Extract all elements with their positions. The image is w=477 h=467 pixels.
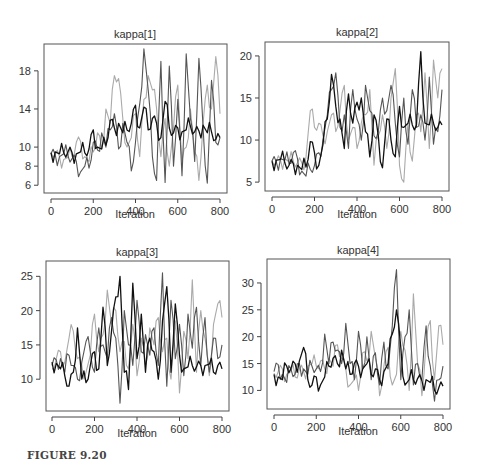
svg-text:0: 0 — [271, 421, 277, 433]
y-axis: 1015202530 — [242, 277, 261, 396]
chain-trace-line — [274, 270, 443, 402]
trace-plot: 02004006008001015202530 — [0, 0, 477, 467]
svg-text:10: 10 — [242, 384, 254, 396]
trace-panel-kappa-4: kappa[4] 02004006008001015202530 Iterati… — [0, 0, 477, 467]
chain-trace-line — [274, 294, 443, 396]
figure-caption-label: FIGURE 9.20 — [27, 449, 107, 461]
svg-text:600: 600 — [392, 421, 410, 433]
svg-text:25: 25 — [242, 304, 254, 316]
x-axis-label: Iteration — [338, 425, 378, 437]
svg-text:30: 30 — [242, 277, 254, 289]
chain-trace-line — [274, 310, 443, 394]
svg-text:20: 20 — [242, 331, 254, 343]
svg-text:15: 15 — [242, 358, 254, 370]
svg-text:200: 200 — [307, 421, 325, 433]
svg-text:800: 800 — [434, 421, 452, 433]
